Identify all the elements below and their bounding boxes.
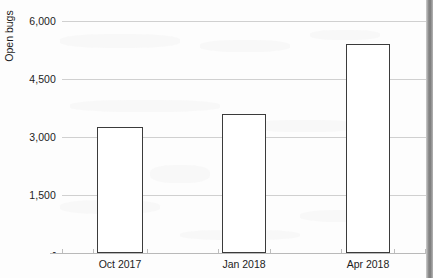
axis-tick: [218, 249, 219, 253]
y-tick-label-0: -: [0, 245, 56, 257]
bar-chart: Open bugs 6,000 4,500 3,000 1,500 - Oct …: [0, 0, 436, 278]
y-tick-label-3000: 3,000: [0, 131, 56, 143]
y-tick-label-6000: 6,000: [0, 15, 56, 27]
page-edge-shadow: [426, 0, 433, 278]
gridline-6000: [62, 21, 427, 22]
bar-jan-2018[interactable]: [222, 114, 266, 253]
axis-tick: [62, 249, 63, 253]
bar-oct-2017[interactable]: [97, 127, 143, 253]
y-tick-label-4500: 4,500: [0, 73, 56, 85]
bar-apr-2018[interactable]: [346, 44, 390, 253]
axis-tick: [270, 249, 271, 253]
axis-tick: [93, 249, 94, 253]
axis-tick: [147, 249, 148, 253]
x-tick-label-apr-2018: Apr 2018: [328, 258, 408, 270]
axis-tick: [341, 249, 342, 253]
y-tick-label-1500: 1,500: [0, 189, 56, 201]
chart-title-cropped: [70, 0, 370, 1]
axis-tick: [394, 249, 395, 253]
y-axis-title: Open bugs: [3, 3, 15, 69]
x-tick-label-jan-2018: Jan 2018: [204, 258, 284, 270]
x-axis-baseline: [50, 253, 427, 254]
x-tick-label-oct-2017: Oct 2017: [80, 258, 160, 270]
